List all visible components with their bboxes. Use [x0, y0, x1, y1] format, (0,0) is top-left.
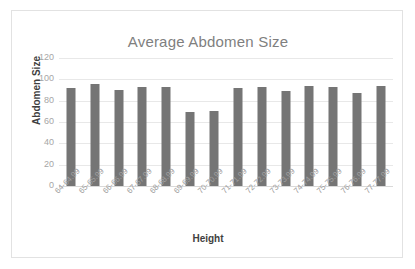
x-axis-tick-labels: 64-64.9965-65.9966-66.9967-67.9968-68.99…: [59, 187, 393, 235]
bar-slot: [131, 58, 155, 186]
bar-slot: [226, 58, 250, 186]
x-axis-title: Height: [12, 233, 404, 244]
bar-slot: [154, 58, 178, 186]
bar-slot: [298, 58, 322, 186]
bar-slot: [250, 58, 274, 186]
y-tick-label: 40: [20, 138, 54, 147]
bar-slot: [321, 58, 345, 186]
bar-slot: [274, 58, 298, 186]
bar-slot: [202, 58, 226, 186]
bar-slot: [107, 58, 131, 186]
bar-slot: [369, 58, 393, 186]
bar-slot: [345, 58, 369, 186]
bar-slot: [83, 58, 107, 186]
chart-title: Average Abdomen Size: [12, 33, 404, 50]
chart-frame: Average Abdomen Size 020406080100120 Abd…: [11, 10, 403, 258]
plot-area: [59, 58, 393, 186]
chart-screenshot: Average Abdomen Size 020406080100120 Abd…: [0, 0, 415, 269]
bar-slot: [178, 58, 202, 186]
bar-slot: [59, 58, 83, 186]
y-tick-label: 20: [20, 160, 54, 169]
y-axis-title: Abdomen Size: [31, 43, 42, 139]
y-tick-label: 0: [20, 181, 54, 190]
bars-layer: [59, 58, 393, 186]
